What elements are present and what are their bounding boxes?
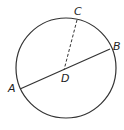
label-c: C <box>74 5 82 18</box>
label-a: A <box>7 82 16 95</box>
label-b: B <box>113 40 121 53</box>
label-d: D <box>61 72 69 85</box>
segment-cd-dashed <box>64 20 77 70</box>
circle-diagram: A B C D <box>0 0 124 130</box>
